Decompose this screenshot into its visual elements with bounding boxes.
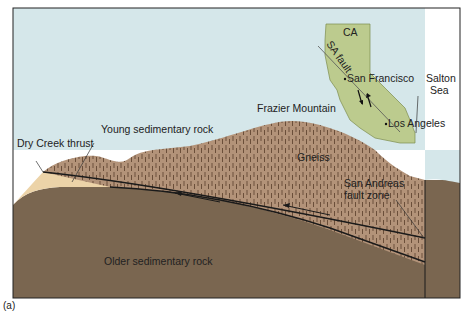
label-young-sedimentary-rock: Young sedimentary rock <box>101 123 214 135</box>
label-gneiss: Gneiss <box>297 151 330 163</box>
map-label-salton: Salton <box>426 72 456 84</box>
map-label-sea: Sea <box>430 84 449 96</box>
label-san-andreas: San Andreas <box>344 177 404 189</box>
right-crustal-block <box>425 180 460 298</box>
figure-caption-label: (a) <box>3 300 15 311</box>
map-label-san-francisco: San Francisco <box>347 72 414 84</box>
label-fault-zone: fault zone <box>344 189 390 201</box>
geologic-cross-section: Dry Creek thrust Young sedimentary rock … <box>0 0 471 315</box>
label-dry-creek-thrust: Dry Creek thrust <box>17 137 94 149</box>
map-label-los-angeles: Los Angeles <box>388 117 445 129</box>
label-frazier-mountain: Frazier Mountain <box>257 102 336 114</box>
map-label-ca: CA <box>343 26 358 38</box>
label-older-sedimentary-rock: Older sedimentary rock <box>104 255 213 267</box>
